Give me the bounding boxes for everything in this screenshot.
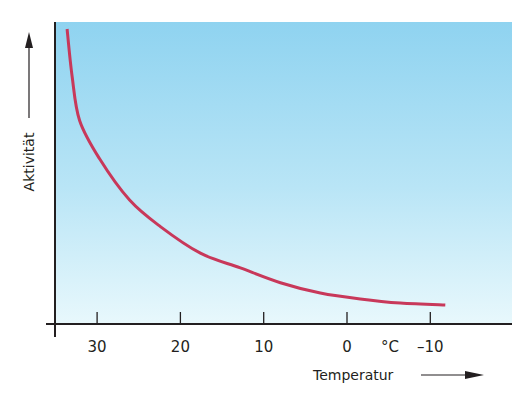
- y-axis-title-group: Aktivität: [21, 32, 37, 191]
- x-tick-label: 0: [342, 338, 352, 356]
- x-tick-label: 10: [254, 338, 273, 356]
- plot-area: [55, 22, 512, 324]
- x-tick-label: 30: [88, 338, 107, 356]
- x-axis-unit: °C: [381, 338, 399, 356]
- arrow-right-icon: [465, 371, 484, 379]
- activity-temperature-chart: 3020100–10 Aktivität Temperatur °C: [0, 0, 524, 397]
- x-axis-title-group: Temperatur: [312, 367, 484, 383]
- x-tick-label: –10: [417, 338, 444, 356]
- x-axis-title: Temperatur: [312, 367, 394, 383]
- x-tick-label: 20: [171, 338, 190, 356]
- y-axis-title: Aktivität: [21, 132, 37, 191]
- arrow-up-icon: [25, 32, 33, 48]
